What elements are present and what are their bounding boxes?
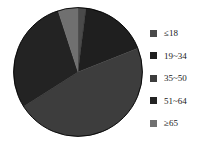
legend-item-label: 51~64 [164,96,187,106]
pie-chart-svg [13,7,143,137]
legend-swatch-icon [150,75,157,82]
legend-item-2[interactable]: 35~50 [150,71,208,85]
legend-swatch-icon [150,52,157,59]
legend-item-1[interactable]: 19~34 [150,49,208,63]
legend-item-label: 35~50 [164,73,187,83]
legend-swatch-icon [150,97,157,104]
pie-chart-figure: ≤18 19~34 35~50 51~64 ≥65 [0,0,209,149]
pie-chart-plot-area [13,7,143,137]
legend-item-label: 19~34 [164,51,187,61]
legend-swatch-icon [150,120,157,127]
legend: ≤18 19~34 35~50 51~64 ≥65 [150,26,208,130]
legend-item-3[interactable]: 51~64 [150,94,208,108]
legend-item-4[interactable]: ≥65 [150,116,208,130]
legend-item-0[interactable]: ≤18 [150,26,208,40]
pie-slice-group [14,8,143,137]
legend-swatch-icon [150,30,157,37]
legend-item-label: ≥65 [164,118,178,128]
legend-item-label: ≤18 [164,28,178,38]
